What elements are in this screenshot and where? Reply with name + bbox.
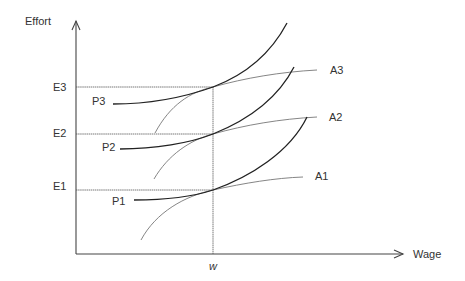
x-axis-label: Wage: [413, 248, 441, 260]
p1-curve: [134, 117, 307, 200]
p2-label: P2: [102, 141, 115, 153]
y-axis-label: Effort: [25, 15, 51, 27]
a1-label: A1: [315, 170, 328, 182]
a2-curve: [154, 117, 317, 179]
p1-label: P1: [112, 195, 125, 207]
effort-wage-diagram: Effort Wage w E3 E2 E1 P3 P2 P1 A3 A2 A1: [0, 0, 465, 281]
a2-label: A2: [329, 111, 342, 123]
p2-curve: [120, 67, 294, 149]
effort-label-e3: E3: [53, 81, 66, 93]
p3-curve: [113, 23, 287, 104]
effort-label-e1: E1: [53, 180, 66, 192]
p3-label: P3: [92, 95, 105, 107]
a3-label: A3: [330, 64, 343, 76]
wage-marker-label: w: [209, 260, 218, 272]
effort-label-e2: E2: [53, 127, 66, 139]
